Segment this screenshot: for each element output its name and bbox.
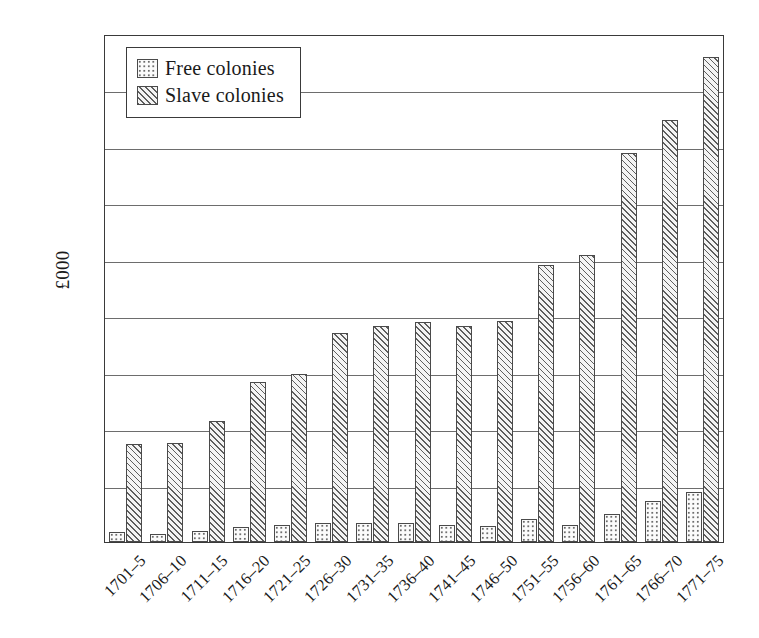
bar-slave[interactable]	[579, 255, 595, 542]
hatched-swatch-icon	[137, 86, 158, 105]
bar-free[interactable]	[315, 523, 331, 542]
bar-free[interactable]	[645, 501, 661, 542]
bar-slave[interactable]	[538, 265, 554, 542]
bar-free[interactable]	[562, 525, 578, 542]
chart-legend: Free colonies Slave colonies	[126, 47, 301, 118]
bar-free[interactable]	[192, 531, 208, 542]
y-axis-title: £000	[52, 210, 74, 330]
dotted-swatch-icon	[137, 59, 158, 78]
bar-free[interactable]	[398, 523, 414, 542]
bar-slave[interactable]	[373, 326, 389, 542]
bar-slave[interactable]	[167, 443, 183, 542]
bar-slave[interactable]	[621, 153, 637, 542]
bar-group	[393, 36, 434, 542]
bar-free[interactable]	[686, 492, 702, 542]
bar-slave[interactable]	[497, 321, 513, 542]
bar-group	[435, 36, 476, 542]
chart-figure: £000 05001000150020002500300035004000450…	[0, 0, 759, 638]
bar-free[interactable]	[439, 525, 455, 542]
bar-slave[interactable]	[250, 382, 266, 542]
bar-free[interactable]	[109, 532, 125, 542]
bar-group	[476, 36, 517, 542]
bar-slave[interactable]	[662, 120, 678, 542]
bar-free[interactable]	[233, 527, 249, 542]
bar-group	[558, 36, 599, 542]
x-axis-tick-labels: 1701–51706–101711–151716–201721–251726–3…	[104, 543, 724, 638]
bar-free[interactable]	[521, 519, 537, 542]
bar-slave[interactable]	[291, 374, 307, 542]
bar-slave[interactable]	[415, 322, 431, 542]
bar-slave[interactable]	[332, 333, 348, 542]
bar-group	[352, 36, 393, 542]
bar-group	[599, 36, 640, 542]
bar-free[interactable]	[604, 514, 620, 542]
legend-item-slave-colonies[interactable]: Slave colonies	[137, 82, 284, 109]
legend-item-free-colonies[interactable]: Free colonies	[137, 55, 284, 82]
bar-free[interactable]	[274, 525, 290, 542]
bar-slave[interactable]	[209, 421, 225, 542]
bar-slave[interactable]	[456, 326, 472, 542]
legend-label-free-colonies: Free colonies	[165, 57, 275, 80]
bar-group	[311, 36, 352, 542]
bar-free[interactable]	[356, 523, 372, 542]
bar-group	[517, 36, 558, 542]
bar-free[interactable]	[150, 534, 166, 542]
bar-group	[682, 36, 723, 542]
legend-label-slave-colonies: Slave colonies	[165, 84, 284, 107]
bar-free[interactable]	[480, 526, 496, 542]
bar-slave[interactable]	[126, 444, 142, 542]
bar-slave[interactable]	[703, 57, 719, 542]
bar-group	[641, 36, 682, 542]
